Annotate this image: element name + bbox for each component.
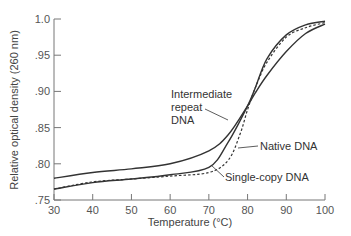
melting-curve-chart: 30405060708090100.75.80.85.90.951.0 Temp…: [0, 0, 351, 236]
annot-single: Single-copy DNA: [225, 171, 309, 183]
annot-intermediate-line2: repeat: [171, 101, 202, 113]
y-tick-label: 1.0: [35, 13, 50, 25]
annotation-native: Native DNA: [238, 140, 318, 152]
x-tick-label: 80: [241, 204, 253, 216]
x-tick-label: 40: [87, 204, 99, 216]
y-axis-title: Relative optical density (260 nm): [8, 30, 20, 190]
annot-intermediate-line3: DNA: [171, 114, 195, 126]
x-tick-label: 70: [203, 204, 215, 216]
y-tick-label: .90: [35, 85, 50, 97]
x-tick-label: 100: [316, 204, 334, 216]
x-tick-label: 60: [164, 204, 176, 216]
leader-line-intermediate: [205, 109, 228, 120]
x-axis-title: Temperature (°C): [148, 216, 232, 228]
leader-line-single: [211, 165, 224, 177]
annot-native: Native DNA: [260, 140, 318, 152]
y-tick-label: .75: [35, 194, 50, 206]
y-tick-label: .95: [35, 49, 50, 61]
annot-intermediate-line1: Intermediate: [171, 88, 232, 100]
annotation-intermediate: Intermediate repeat DNA: [171, 88, 232, 126]
y-tick-label: .80: [35, 158, 50, 170]
y-tick-label: .85: [35, 122, 50, 134]
x-tick-label: 90: [280, 204, 292, 216]
annotation-single: Single-copy DNA: [211, 165, 309, 183]
leader-line-native: [238, 146, 258, 148]
x-tick-label: 50: [125, 204, 137, 216]
